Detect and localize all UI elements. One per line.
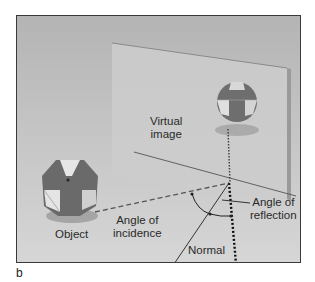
- object-label: Object: [55, 228, 88, 241]
- virtual-image-label: Virtual image: [150, 115, 182, 141]
- angle-of-incidence-label: Angle of incidence: [113, 214, 162, 240]
- virtual-image-polyhedron: [215, 82, 259, 136]
- panel-letter: b: [16, 266, 23, 280]
- mirror-edge: [287, 68, 291, 201]
- reflected-ray: [229, 183, 236, 263]
- reflection-leader: [222, 200, 250, 203]
- normal-label: Normal: [188, 244, 225, 257]
- incidence-angle-arc: [192, 194, 210, 214]
- reflection-angle-arc: [210, 214, 231, 216]
- incident-ray: [95, 183, 229, 212]
- angle-of-reflection-label: Angle of reflection: [250, 196, 297, 222]
- mirror-plane: [112, 43, 287, 199]
- figure-frame: Virtual image Object Angle of incidence …: [16, 15, 301, 263]
- object-polyhedron: [42, 160, 98, 223]
